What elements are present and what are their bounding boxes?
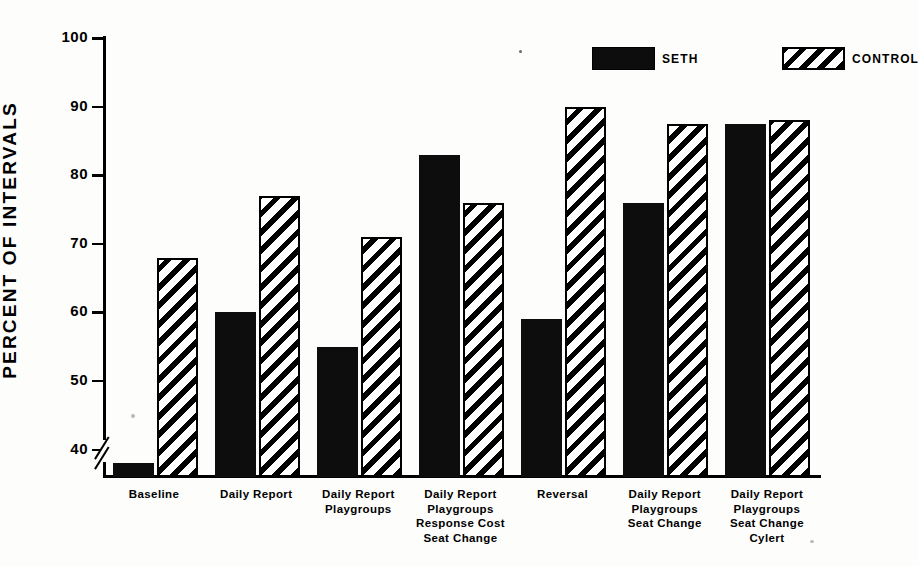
bar-seth-6 [623,203,664,477]
bar-seth-5 [521,319,562,477]
scan-speck [810,540,814,543]
x-category-label-5: Reversal [506,487,620,502]
y-axis-title: PERCENT OF INTERVALS [0,0,25,480]
bar-control-6 [667,124,708,477]
x-category-label-1: Baseline [97,487,211,502]
y-tick-80 [92,174,103,177]
legend-swatch-control-icon [782,47,845,70]
y-tick-100 [92,37,103,40]
y-tick-label-90: 90 [42,97,88,114]
legend-label-control: CONTROL [852,52,919,66]
y-tick-label-60: 60 [42,302,88,319]
x-category-label-2: Daily Report [199,487,313,502]
bar-seth-4 [419,155,460,477]
legend-entry-control: CONTROL [782,47,919,70]
bar-seth-1 [113,463,154,477]
bar-control-7 [769,120,810,477]
x-category-label-6: Daily Report Playgroups Seat Change [608,487,722,531]
y-tick-label-40: 40 [42,440,88,457]
y-tick-label-50: 50 [42,371,88,388]
y-tick-90 [92,106,103,109]
scan-speck [519,50,522,53]
bar-control-1 [157,258,198,478]
x-category-label-3: Daily Report Playgroups [301,487,415,516]
y-tick-label-100: 100 [42,28,88,45]
bar-control-4 [463,203,504,477]
legend-entry-seth: SETH [592,47,698,70]
y-tick-70 [92,243,103,246]
y-tick-50 [92,380,103,383]
y-tick-label-80: 80 [42,165,88,182]
plot-area [103,38,821,477]
scan-speck [131,414,135,418]
bar-control-2 [259,196,300,477]
y-tick-60 [92,311,103,314]
y-tick-label-70: 70 [42,234,88,251]
x-category-label-7: Daily Report Playgroups Seat Change Cyle… [710,487,824,545]
legend-swatch-seth-icon [592,47,655,70]
bar-seth-7 [725,124,766,477]
bar-seth-3 [317,347,358,477]
bar-seth-2 [215,312,256,477]
bar-control-3 [361,237,402,477]
x-category-label-4: Daily Report Playgroups Response Cost Se… [403,487,517,545]
legend-label-seth: SETH [662,52,698,66]
bar-control-5 [565,107,606,477]
